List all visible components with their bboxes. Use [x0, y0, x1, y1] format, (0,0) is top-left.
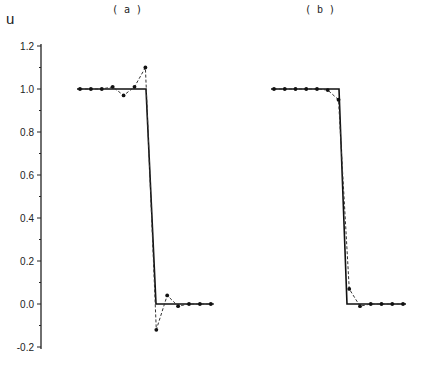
data-point-marker	[154, 328, 158, 332]
data-point-marker	[133, 85, 137, 89]
data-point-marker	[111, 85, 115, 89]
chart: 1.21.00.80.60.40.20.0-0.2u( a )( b )	[0, 0, 422, 365]
y-axis-label: u	[6, 10, 14, 27]
data-point-marker	[100, 87, 104, 91]
data-point-marker	[89, 87, 93, 91]
y-tick-label: 1.0	[20, 84, 34, 95]
panel-title: ( b )	[305, 4, 335, 15]
y-tick-label: 0.0	[20, 299, 34, 310]
data-point-marker	[122, 94, 126, 98]
data-point-marker	[347, 287, 351, 291]
data-point-marker	[209, 302, 213, 306]
data-point-marker	[187, 302, 191, 306]
data-point-marker	[326, 88, 330, 92]
numerical-solution-line	[80, 68, 211, 330]
y-tick-label: 0.4	[20, 213, 34, 224]
data-point-marker	[337, 98, 341, 102]
data-point-marker	[283, 87, 287, 91]
data-point-marker	[294, 87, 298, 91]
y-tick-label: 0.6	[20, 170, 34, 181]
data-point-marker	[304, 87, 308, 91]
data-point-marker	[272, 87, 276, 91]
panel-title: ( a )	[112, 4, 142, 15]
data-point-marker	[78, 87, 82, 91]
data-point-marker	[358, 304, 362, 308]
data-point-marker	[315, 87, 319, 91]
data-point-marker	[369, 302, 373, 306]
y-tick-label: 1.2	[20, 41, 34, 52]
numerical-solution-line	[274, 89, 403, 306]
y-tick-label: 0.2	[20, 256, 34, 267]
data-point-marker	[165, 294, 169, 298]
y-tick-label: -0.2	[17, 342, 35, 353]
data-point-marker	[390, 302, 394, 306]
data-point-marker	[176, 304, 180, 308]
exact-solution-line	[77, 89, 214, 304]
y-tick-label: 0.8	[20, 127, 34, 138]
data-point-marker	[401, 302, 405, 306]
exact-solution-line	[271, 89, 406, 304]
data-point-marker	[144, 66, 148, 70]
data-point-marker	[198, 302, 202, 306]
data-point-marker	[380, 302, 384, 306]
